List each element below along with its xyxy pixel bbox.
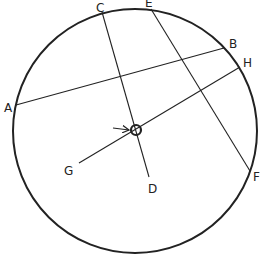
point-label-c: C bbox=[96, 1, 104, 15]
point-label-a: A bbox=[4, 101, 13, 115]
point-label-e: E bbox=[145, 0, 153, 10]
point-label-h: H bbox=[243, 56, 252, 70]
point-label-g: G bbox=[64, 164, 73, 178]
segment-CD bbox=[102, 12, 149, 177]
outer-circle bbox=[13, 9, 257, 253]
point-label-b: B bbox=[229, 37, 237, 51]
point-label-f: F bbox=[253, 170, 260, 184]
point-label-d: D bbox=[148, 182, 157, 196]
circle-diagram: ABCDEFGH bbox=[0, 0, 267, 263]
arrow-pointer bbox=[113, 128, 129, 130]
